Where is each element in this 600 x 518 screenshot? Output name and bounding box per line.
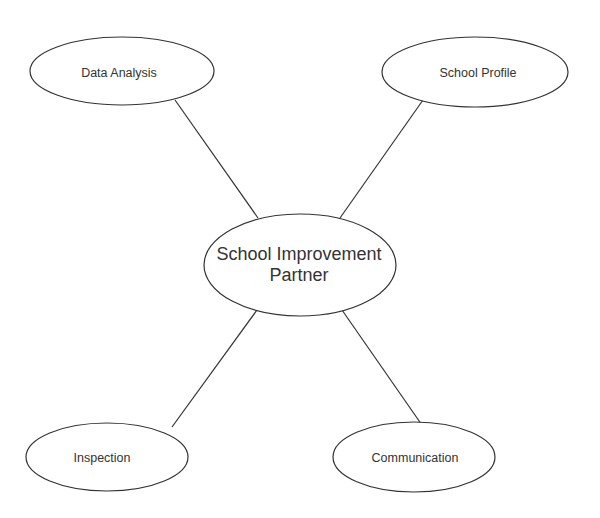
center-node-label-line2: Partner [216,265,381,286]
node-inspection-label: Inspection [74,451,131,466]
edge-data-analysis [175,100,258,218]
node-school-profile-label: School Profile [439,66,516,81]
edge-inspection [172,310,257,427]
center-node-label-line1: School Improvement [216,244,381,265]
node-communication-label: Communication [372,451,459,466]
node-data-analysis-label: Data Analysis [81,66,157,81]
edge-communication [342,310,424,428]
center-node-label: School Improvement Partner [216,244,381,285]
edge-school-profile [340,100,423,218]
